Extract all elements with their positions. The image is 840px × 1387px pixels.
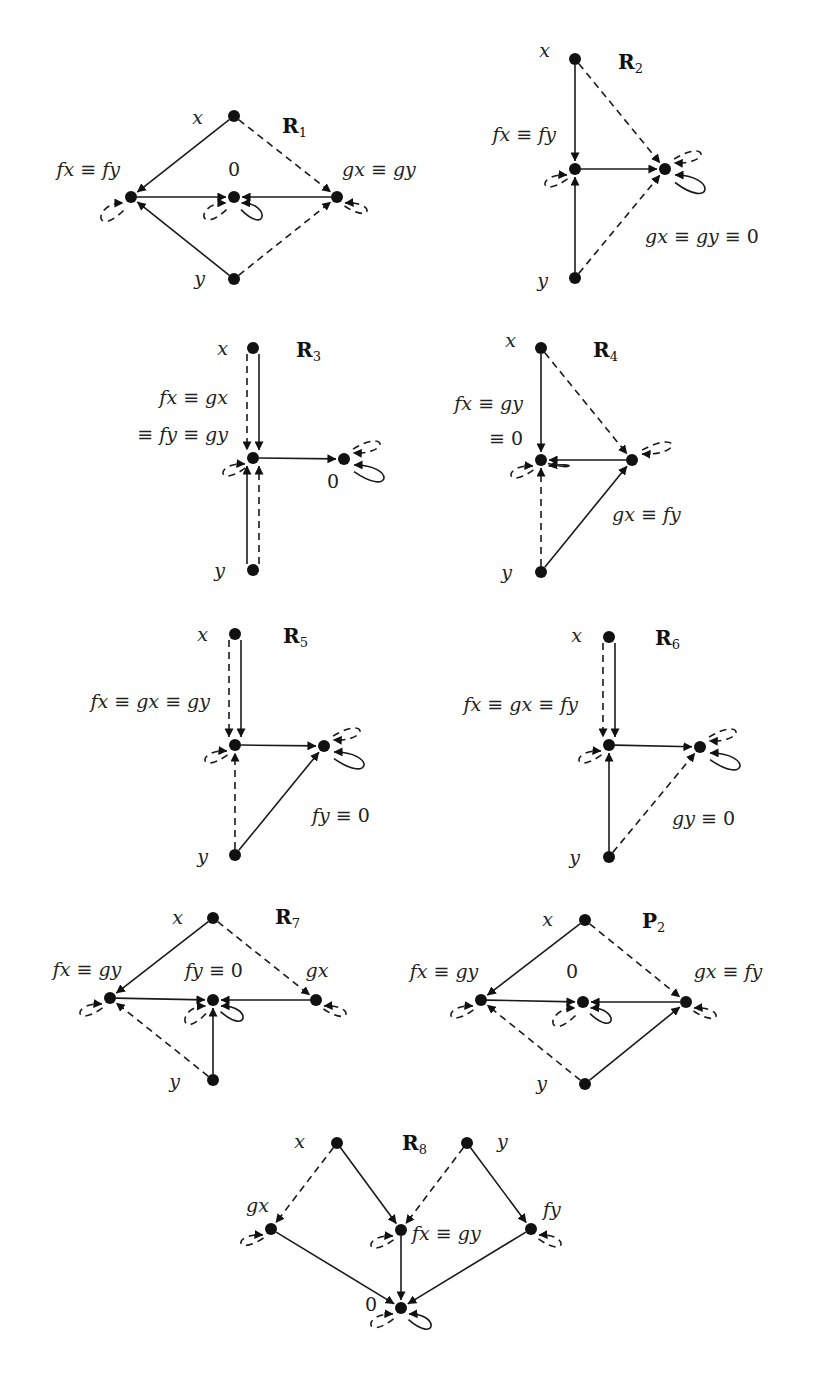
node-label: gx ≡ fy <box>612 503 681 525</box>
dashed-self-loop <box>511 466 534 478</box>
node-x <box>228 110 240 122</box>
node-label: y <box>193 267 205 289</box>
dashed-edge <box>579 64 660 163</box>
dashed-self-loop <box>694 1008 717 1018</box>
diagram-title: R8 <box>402 1131 427 1157</box>
node-z <box>318 740 330 752</box>
diagram-r6: R6xfx ≡ gx ≡ fygy ≡ 0y <box>462 624 740 868</box>
node-y <box>579 1078 591 1090</box>
node-label: fx ≡ gy <box>452 392 523 414</box>
node-y <box>603 851 615 863</box>
node-label: fx ≡ gy <box>410 1222 481 1244</box>
node-label: x <box>505 329 516 351</box>
dashed-self-loop <box>80 1004 103 1016</box>
solid-self-loop <box>710 753 740 770</box>
node-label: fx ≡ fy <box>54 158 120 180</box>
node-label: 0 <box>228 158 240 180</box>
solid-self-loop <box>354 465 384 482</box>
node-z <box>395 1302 407 1314</box>
node-z <box>694 741 706 753</box>
dashed-edge <box>116 1003 208 1076</box>
dashed-edge <box>590 924 680 997</box>
dashed-self-loop <box>204 203 227 220</box>
diagram-title: R3 <box>296 338 321 364</box>
node-label: y <box>535 1072 547 1094</box>
node-z <box>207 994 219 1006</box>
node-label: fx ≡ gx ≡ gy <box>88 690 210 712</box>
node-z <box>338 453 350 465</box>
dashed-self-loop <box>333 728 360 740</box>
node-label: fx ≡ gx ≡ fy <box>462 693 579 715</box>
node-a <box>475 994 487 1006</box>
node-label: gx ≡ fy <box>694 960 763 982</box>
dashed-edge <box>276 1148 333 1223</box>
node-y <box>247 564 259 576</box>
node-a <box>569 163 581 175</box>
node-x <box>535 342 547 354</box>
solid-edge <box>341 1148 397 1224</box>
dashed-self-loop <box>353 441 380 453</box>
diagram-r7: R7xfx ≡ gyfy ≡ 0gxy <box>51 905 346 1092</box>
diagram-title: R2 <box>618 50 643 76</box>
node-label: x <box>172 906 183 928</box>
node-x <box>331 1137 343 1149</box>
dashed-self-loop <box>185 1006 206 1024</box>
diagram-r8: R8xygxfx ≡ gyfy0 <box>241 1130 561 1329</box>
diagram-title: R6 <box>655 626 680 652</box>
node-label: fx ≡ fy <box>490 123 556 145</box>
node-x <box>603 631 615 643</box>
diagram-title: R1 <box>282 114 307 140</box>
node-label: y <box>196 845 208 867</box>
node-gx <box>265 1223 277 1235</box>
node-label: 0 <box>327 470 339 492</box>
diagram-r5: R5xfx ≡ gx ≡ gyfy ≡ 0y <box>88 623 369 867</box>
solid-edge <box>615 745 692 747</box>
diagram-figure: R1xfx ≡ fy0gx ≡ gyyR2xfx ≡ fygx ≡ gy ≡ 0… <box>0 0 840 1387</box>
diagram-r4: R4xfx ≡ gy≡ 0gx ≡ fyy <box>452 329 681 583</box>
dashed-self-loop <box>579 751 602 763</box>
node-z <box>535 454 547 466</box>
node-b <box>310 994 322 1006</box>
node-label: fx ≡ gy <box>408 960 479 982</box>
node-x <box>247 342 259 354</box>
dashed-self-loop <box>324 1006 347 1016</box>
diagram-r1: R1xfx ≡ fy0gx ≡ gyy <box>54 106 416 289</box>
solid-edge <box>116 922 208 993</box>
solid-edge <box>590 1007 680 1080</box>
solid-self-loop <box>241 203 262 220</box>
node-label: gy ≡ 0 <box>672 807 735 829</box>
solid-self-loop <box>675 175 705 193</box>
dashed-edge <box>613 753 695 852</box>
dashed-self-loop <box>223 464 246 476</box>
solid-edge <box>487 1000 575 1002</box>
node-a <box>229 739 241 751</box>
dashed-edge <box>406 1148 464 1224</box>
node-label: x <box>539 39 550 61</box>
node-y <box>535 566 547 578</box>
node-label: x <box>294 1130 305 1152</box>
solid-self-loop <box>409 1314 432 1329</box>
node-a <box>104 992 116 1004</box>
node-a <box>603 739 615 751</box>
node-x <box>207 912 219 924</box>
dashed-self-loop <box>709 729 736 741</box>
dashed-self-loop <box>101 203 124 221</box>
node-b <box>680 996 692 1008</box>
dashed-self-loop <box>553 1008 576 1026</box>
solid-edge <box>471 1148 527 1223</box>
node-label: y <box>500 561 512 583</box>
node-label: y <box>536 269 548 291</box>
dashed-self-loop <box>539 1235 562 1247</box>
solid-edge <box>137 120 229 192</box>
dashed-self-loop <box>371 1236 394 1248</box>
node-y <box>461 1137 473 1149</box>
dashed-self-loop <box>545 175 568 187</box>
solid-self-loop <box>590 1008 611 1023</box>
node-label: gx <box>246 1194 269 1216</box>
solid-self-loop <box>548 464 569 467</box>
node-z <box>659 163 671 175</box>
diagram-title: R4 <box>593 338 618 364</box>
node-label-continued: ≡ 0 <box>489 427 523 449</box>
dashed-self-loop <box>205 751 228 763</box>
node-label: x <box>571 624 582 646</box>
